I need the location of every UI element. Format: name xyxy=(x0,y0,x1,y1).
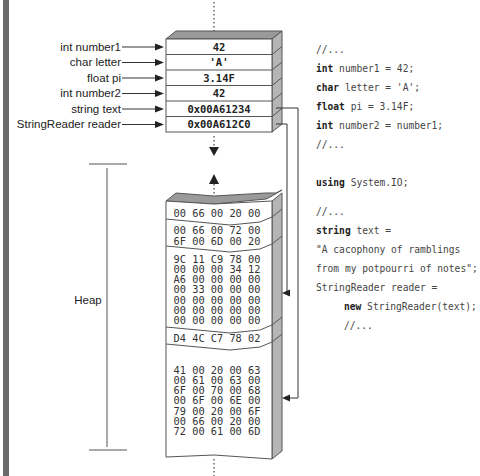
code-text: //... xyxy=(316,44,345,55)
code-line: from my potpourri of notes"; xyxy=(316,259,478,278)
code-text: from my potpourri of notes"; xyxy=(316,263,478,274)
code-keyword: string xyxy=(316,225,351,236)
heap-side-face xyxy=(272,193,282,459)
code-text: letter = 'A'; xyxy=(339,82,420,93)
code-line: new StringReader(text); xyxy=(316,297,478,316)
stack-cell-value: 42 xyxy=(213,87,226,99)
code-line: //... xyxy=(316,40,443,59)
stack-variable-label: char letter xyxy=(70,56,121,68)
code-text: StringReader(text); xyxy=(361,301,477,312)
arrowhead-icon xyxy=(155,59,164,66)
code-keyword: char xyxy=(316,82,339,93)
code-text: StringReader reader = xyxy=(316,282,437,293)
stack-variable-label: StringReader reader xyxy=(17,118,121,130)
code-text: System.IO; xyxy=(345,177,409,188)
text-reference-arrowhead-icon xyxy=(282,395,290,402)
code-text: //... xyxy=(316,139,345,150)
heap-extent: Heap xyxy=(70,164,127,450)
stack-variable-label: int number1 xyxy=(60,41,121,53)
code-line: using System.IO; xyxy=(316,173,408,192)
code-line: int number2 = number1; xyxy=(316,116,443,135)
code-line: //... xyxy=(316,202,478,221)
stack-cell-value: 'A' xyxy=(210,56,229,68)
code-line: string text = xyxy=(316,221,478,240)
heap-byte-row: 00 66 00 20 00 xyxy=(174,207,261,219)
heap-byte-row: 72 00 61 00 6D xyxy=(174,425,261,437)
code-text: "A cacophony of ramblings xyxy=(316,244,460,255)
stack-cell-value: 0x00A61234 xyxy=(187,103,250,115)
heap-byte-row: 00 00 00 00 00 xyxy=(174,314,261,326)
code-block-string-reader: //...string text ="A cacophony of rambli… xyxy=(316,202,478,335)
code-line: //... xyxy=(316,316,478,335)
stack-variable-label: string text xyxy=(71,103,122,115)
heap-label: Heap xyxy=(74,294,102,306)
code-text: pi = 3.14F; xyxy=(345,101,414,112)
code-text: //... xyxy=(344,320,373,331)
arrowhead-icon xyxy=(155,90,164,97)
code-keyword: using xyxy=(316,177,345,188)
stack-grows-down-arrow-icon xyxy=(209,147,219,156)
reader-reference-arrowhead-icon xyxy=(282,290,290,297)
stack-top-face xyxy=(166,31,282,39)
code-line: char letter = 'A'; xyxy=(316,78,443,97)
code-block-declarations: //...int number1 = 42;char letter = 'A';… xyxy=(316,40,443,154)
stack-cell-value: 0x00A612C0 xyxy=(187,118,250,130)
arrowhead-icon xyxy=(155,75,164,82)
stack-box: 42'A'3.14F420x00A612340x00A612C0 xyxy=(166,2,282,156)
code-line: "A cacophony of ramblings xyxy=(316,240,478,259)
heap-byte-row: 6F 00 6D 00 20 xyxy=(174,235,261,247)
code-line: //... xyxy=(316,135,443,154)
stack-variable-label: int number2 xyxy=(60,87,121,99)
stack-variable-label: float pi xyxy=(87,72,121,84)
code-keyword: int xyxy=(316,120,333,131)
arrowhead-icon xyxy=(155,106,164,113)
heap-grows-up-arrow-icon xyxy=(209,174,219,184)
heap-byte-row: D4 4C C7 78 02 xyxy=(174,332,261,344)
code-line: StringReader reader = xyxy=(316,278,478,297)
arrowhead-icon xyxy=(155,121,164,128)
code-keyword: int xyxy=(316,63,333,74)
code-text: //... xyxy=(316,206,345,217)
code-keyword: float xyxy=(316,101,345,112)
code-text: number2 = number1; xyxy=(333,120,443,131)
code-line: float pi = 3.14F; xyxy=(316,97,443,116)
code-keyword: new xyxy=(344,301,361,312)
code-block-using: using System.IO; xyxy=(316,173,408,192)
stack-cell-value: 3.14F xyxy=(203,72,235,84)
code-text: number1 = 42; xyxy=(333,63,414,74)
arrowhead-icon xyxy=(155,44,164,51)
code-line: int number1 = 42; xyxy=(316,59,443,78)
stack-cell-value: 42 xyxy=(213,41,226,53)
heap-box: 00 66 00 20 0000 66 00 72 006F 00 6D 00 … xyxy=(166,174,282,476)
left-margin-bar xyxy=(3,0,9,476)
code-text: text = xyxy=(351,225,391,236)
